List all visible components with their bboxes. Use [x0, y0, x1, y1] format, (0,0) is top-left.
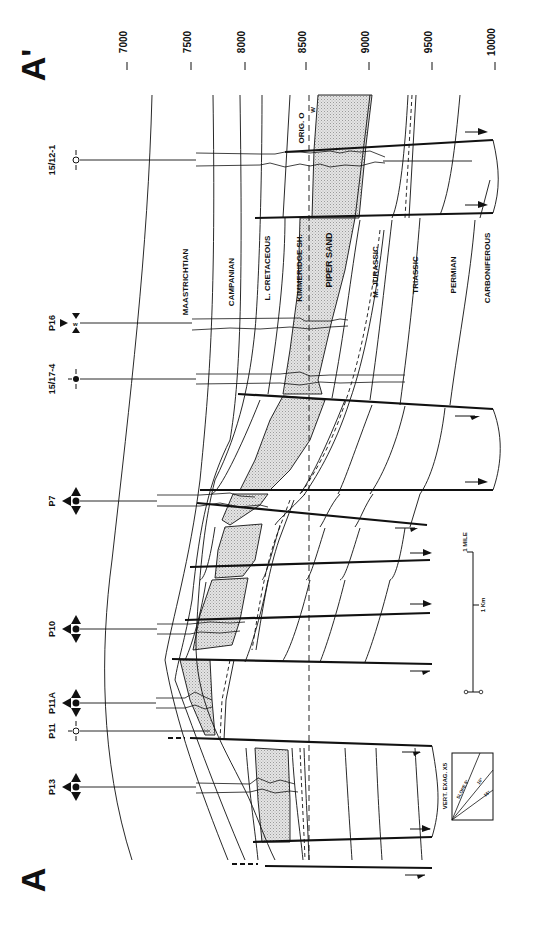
vertical-exaggeration-box: VERT. EXAG. X5 SLOPE 5° 10° 15° [442, 753, 493, 820]
well-label: P7 [47, 495, 57, 506]
well-label: P11 [47, 723, 57, 739]
well-label: P10 [47, 621, 57, 637]
producer-icon [62, 487, 81, 515]
formation-label-campanian: CAMPANIAN [227, 258, 236, 307]
formation-label-triassic: TRIASSIC [411, 256, 420, 294]
producer-icon [62, 615, 81, 643]
fault-11 [265, 866, 432, 868]
depth-scale: 7000 7500 8000 8500 9000 9500 10000 [118, 28, 497, 70]
well-p11[interactable]: P11 [47, 721, 210, 741]
depth-tick-7000: 7000 [118, 30, 129, 70]
scale-bar: 1 MILE 1 Km [462, 532, 486, 693]
formation-label-kimmeridge: KIMMERIDGE SH. [295, 234, 304, 302]
formation-label-m-jurassic: M. JURASSIC [371, 246, 380, 298]
section-label-a: A [14, 868, 52, 893]
well-label: P13 [47, 779, 57, 795]
svg-text:7000: 7000 [118, 30, 129, 53]
svg-text:7500: 7500 [182, 30, 193, 53]
depth-tick-8500: 8500 [297, 30, 308, 70]
formation-label-maastrichtian: MAASTRICHTIAN [181, 248, 190, 315]
owc-label: ORIG. O [297, 112, 306, 143]
well-label: 15/17-4 [47, 364, 57, 395]
svg-text:9000: 9000 [360, 30, 371, 53]
scale-km-label: 1 Km [480, 598, 486, 613]
formation-label-piper-sand: PIPER SAND [324, 232, 334, 288]
fault-9 [190, 738, 432, 746]
depth-tick-8000: 8000 [236, 30, 247, 70]
depth-tick-9500: 9500 [423, 30, 434, 70]
formation-label-permian: PERMIAN [449, 256, 458, 293]
vert-exag-title: VERT. EXAG. X5 [442, 762, 448, 809]
svg-text:8000: 8000 [236, 30, 247, 53]
depth-tick-9000: 9000 [360, 30, 371, 70]
oil-well-icon [68, 369, 79, 389]
section-end-label: A' [14, 49, 52, 82]
well-15-17-4[interactable]: 15/17-4 [47, 364, 405, 395]
section-label-a-prime: A' [14, 49, 52, 82]
svg-text:9500: 9500 [423, 30, 434, 53]
owc-sublabel: W [310, 107, 316, 113]
formation-label-l-cretaceous: L. CRETACEOUS [263, 235, 272, 300]
depth-tick-7500: 7500 [182, 30, 193, 70]
depth-tick-10000: 10000 [486, 28, 497, 70]
well-label: P11A [47, 691, 57, 714]
dry-hole-icon [73, 150, 79, 170]
cross-section-svg: A' A 7000 7500 8000 8500 9000 9500 10000 [0, 0, 545, 931]
fault-3 [238, 394, 493, 409]
dry-hole-icon [68, 721, 79, 741]
horizons [105, 95, 490, 860]
producer-icon [62, 773, 81, 801]
cross-section-figure: A' A 7000 7500 8000 8500 9000 9500 10000 [0, 0, 545, 931]
well-label: 15/12-1 [47, 145, 57, 176]
formation-label-carboniferous: CARBONIFEROUS [483, 232, 492, 303]
svg-text:8500: 8500 [297, 30, 308, 53]
fault-2 [255, 213, 493, 218]
water-injector-icon: w [60, 313, 80, 333]
svg-text:w: w [72, 321, 78, 327]
well-label: P16 [47, 315, 57, 331]
svg-text:10000: 10000 [486, 28, 497, 56]
producer-icon [62, 689, 81, 717]
piper-sand-fill [180, 95, 372, 842]
fault-8 [172, 659, 432, 664]
scale-mile-label: 1 MILE [462, 532, 468, 551]
section-start-label: A [14, 868, 52, 893]
